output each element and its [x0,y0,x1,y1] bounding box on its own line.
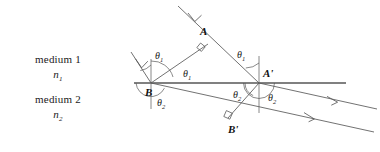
angle-label-theta1-at-B-wavefront: θ1 [183,68,191,81]
theta-subscript: 1 [188,74,191,81]
point-label-A: A [200,25,207,37]
medium-2-name: medium 2 [35,93,81,105]
medium-1-name: medium 1 [35,53,81,65]
arrowhead-incident-lower [136,59,148,68]
medium-1-label: medium 1 n1 [16,52,100,84]
angle-arc-theta1-wavefront-at-B [151,61,173,77]
theta-subscript: 2 [273,98,276,105]
theta-subscript: 2 [162,103,165,110]
angle-label-theta1-at-B-incident: θ1 [155,50,163,63]
angle-label-theta2-at-A-prime-left: θ2 [233,89,241,102]
theta-subscript: 1 [242,55,245,62]
theta-subscript: 2 [238,95,241,102]
point-label-B-prime: B' [228,123,238,135]
refracted-ray-from-B [151,83,374,132]
point-label-B: B [145,86,152,98]
medium-2-index: n2 [16,107,100,125]
medium-1-index-subscript: 1 [59,75,63,83]
theta-subscript: 1 [160,56,163,63]
arrowhead-refracted-upper [327,96,338,105]
angle-arc-theta1-at-A-prime [246,63,259,68]
refraction-diagram: medium 1 n1 medium 2 n2 A B A' B' θ1 θ1 … [0,0,380,152]
angle-label-theta2-at-A-prime-right: θ2 [268,92,276,105]
point-label-A-prime: A' [263,67,273,79]
medium-2-index-subscript: 2 [59,115,63,123]
medium-1-index: n1 [16,67,100,85]
medium-2-label: medium 2 n2 [16,92,100,124]
angle-label-theta1-at-A-prime: θ1 [237,49,245,62]
angle-label-theta2-at-B: θ2 [157,97,165,110]
refracted-ray-from-A-prime [259,83,377,109]
